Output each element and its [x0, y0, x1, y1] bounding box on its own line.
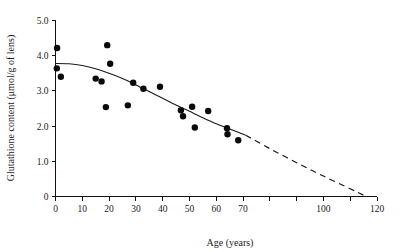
y-tick-label: 4.0 [37, 51, 49, 61]
y-tick-label: 1.0 [37, 157, 49, 167]
data-point [224, 131, 230, 137]
x-axis-ticks: 010203040506070100120 [53, 197, 384, 214]
data-point [107, 61, 113, 67]
chart-figure: 01.02.03.04.05.0 010203040506070100120 A… [0, 0, 405, 252]
data-point [103, 104, 109, 110]
fit-curve-dashed [246, 135, 367, 196]
data-point [98, 78, 104, 84]
data-point [205, 108, 211, 114]
x-tick-label: 40 [158, 204, 168, 214]
data-point [180, 113, 186, 119]
y-tick-label: 3.0 [37, 86, 49, 96]
x-tick-label: 30 [131, 204, 141, 214]
fit-curve-solid [56, 63, 246, 135]
data-point [235, 137, 241, 143]
data-points-group [54, 42, 242, 143]
x-tick-label: 100 [316, 204, 331, 214]
x-axis-title: Age (years) [207, 237, 254, 249]
data-point [157, 83, 163, 89]
x-tick-label: 20 [104, 204, 114, 214]
y-axis-title: Glutathione content (μmol/g of lens) [5, 35, 17, 181]
x-tick-label: 60 [212, 204, 222, 214]
data-point [178, 107, 184, 113]
data-point [192, 124, 198, 130]
x-tick-label: 70 [238, 204, 248, 214]
x-tick-label: 0 [53, 204, 58, 214]
y-axis-ticks: 01.02.03.04.05.0 [37, 16, 56, 202]
data-point [54, 45, 60, 51]
x-tick-label: 120 [370, 204, 385, 214]
y-tick-label: 0 [44, 192, 49, 202]
data-point [189, 104, 195, 110]
x-tick-label: 10 [78, 204, 88, 214]
data-point [140, 86, 146, 92]
data-point [58, 74, 64, 80]
x-tick-label: 50 [185, 204, 195, 214]
data-point [92, 75, 98, 81]
data-point [125, 102, 131, 108]
data-point [54, 65, 60, 71]
data-point [224, 125, 230, 131]
data-point [130, 80, 136, 86]
y-tick-label: 2.0 [37, 122, 49, 132]
data-point [104, 42, 110, 48]
scatter-plot: 01.02.03.04.05.0 010203040506070100120 A… [0, 0, 405, 252]
y-tick-label: 5.0 [37, 16, 49, 26]
